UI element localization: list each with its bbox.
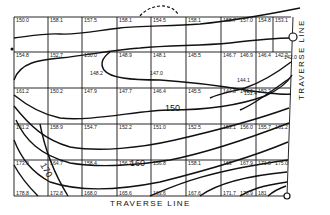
spot-elevation: 147.7 xyxy=(119,88,132,94)
spot-elevation: 161.2 xyxy=(16,88,29,94)
spot-elevation: 146.4 xyxy=(153,88,166,94)
interior-point: 144.1 xyxy=(237,77,250,83)
spot-elevation: 155.7 xyxy=(258,124,271,130)
spot-elevation: 146.7 xyxy=(223,52,236,58)
spot-elevation: 150.2 xyxy=(50,88,63,94)
survey-grid xyxy=(14,17,293,196)
spot-elevation: 153.1 xyxy=(223,124,236,130)
spot-elevation: 157.5 xyxy=(84,17,97,23)
spot-elevation: 152.7 xyxy=(50,52,63,58)
contour-lines xyxy=(14,6,300,196)
spot-elevation: 154.5 xyxy=(153,17,166,23)
spot-elevation: 178.8 xyxy=(16,190,29,196)
spot-elevation: 150.0 xyxy=(16,17,29,23)
spot-elevation: 163.6 xyxy=(153,190,166,196)
spot-elevation: 153.1 xyxy=(275,17,288,23)
spot-elevation: 144.8 xyxy=(223,88,236,94)
interior-point: 151.4 xyxy=(244,90,257,96)
dashed-contour xyxy=(140,6,178,16)
spot-elevation: 158.1 xyxy=(188,160,201,166)
contour-label-160: 160 xyxy=(130,158,145,168)
spot-elevation: 167.6 xyxy=(188,190,201,196)
interior-point: 147.0 xyxy=(150,70,163,76)
contour-line xyxy=(14,75,292,119)
station-marker xyxy=(11,48,14,51)
spot-elevation: 151.0 xyxy=(153,124,166,130)
spot-elevation: 165.6 xyxy=(119,190,132,196)
spot-elevation: 146.4 xyxy=(258,52,271,58)
spot-elevation: 145.5 xyxy=(188,88,201,94)
spot-elevation: 154.8 xyxy=(258,17,271,23)
station-marker xyxy=(289,33,297,41)
spot-elevation: 148.1 xyxy=(153,52,166,58)
station-marker xyxy=(284,193,290,199)
spot-elevation: 175.0 xyxy=(275,160,288,166)
contour-line xyxy=(14,8,300,38)
spot-elevation: 156.8 xyxy=(153,160,166,166)
spot-elevation: 181 xyxy=(258,190,267,196)
spot-elevation: 152.5 xyxy=(188,124,201,130)
traverse-label-right: TRAVERSE LINE xyxy=(297,19,306,100)
spot-elevation: 150.0 xyxy=(84,52,97,58)
spot-elevation: 158.1 xyxy=(119,17,132,23)
spot-elevation: 163 xyxy=(223,160,232,166)
spot-elevation: 154.8 xyxy=(16,52,29,58)
spot-elevation: 158.7 xyxy=(223,17,236,23)
spot-elevation: 154.7 xyxy=(84,124,97,130)
spot-elevation: 156.0 xyxy=(240,124,253,130)
spot-elevation: 172.8 xyxy=(50,190,63,196)
spot-elevation: 167.9 xyxy=(240,160,253,166)
contour-line xyxy=(268,186,286,196)
spot-elevation: 158.1 xyxy=(50,17,63,23)
spot-elevation: 158.1 xyxy=(188,17,201,23)
spot-elevation: 152.2 xyxy=(119,124,132,130)
contour-label-150: 150 xyxy=(165,103,180,113)
interior-point: 148.2 xyxy=(90,70,103,76)
spot-elevation: 158.9 xyxy=(50,124,63,130)
spot-elevation: 158.4 xyxy=(84,160,97,166)
spot-elevation: 157.0 xyxy=(240,17,253,23)
traverse-label-bottom: TRAVERSE LINE xyxy=(110,199,191,208)
spot-elevation: 148.9 xyxy=(119,52,132,58)
spot-elevation: 146.9 xyxy=(240,52,253,58)
spot-elevation: 161.2 xyxy=(16,124,29,130)
spot-elevation: 173.9 xyxy=(16,160,29,166)
spot-elevation: 153.3 xyxy=(258,88,271,94)
spot-elevation: 171.7 xyxy=(223,190,236,196)
spot-elevation: 164.7 xyxy=(50,160,63,166)
spot-elevation: 145.5 xyxy=(188,52,201,58)
spot-elevation: 176.9 xyxy=(240,190,253,196)
traverse-line-right xyxy=(287,17,293,196)
interior-point: 142.0 xyxy=(284,54,297,60)
spot-elevation: 171.8 xyxy=(258,160,271,166)
spot-elevation: 161.2 xyxy=(275,124,288,130)
spot-elevation: 168.0 xyxy=(84,190,97,196)
contour-map: 150.0158.1157.5158.1154.5158.1158.7157.0… xyxy=(0,0,330,215)
spot-elevation: 147.9 xyxy=(84,88,97,94)
